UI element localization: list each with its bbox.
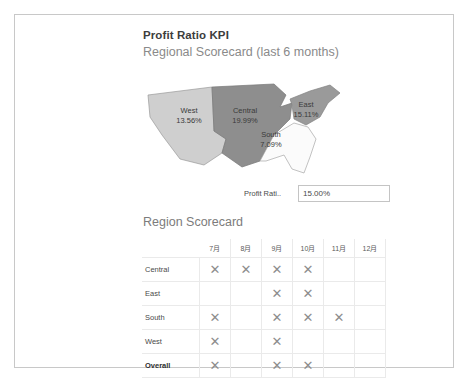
cross-mark-icon: ✕ [272, 286, 283, 301]
cell-south-12月[interactable]: ✕ [355, 306, 386, 330]
cell-south-7月[interactable]: ✕ [200, 306, 231, 330]
map-label-south-value: 7.09% [246, 140, 296, 150]
report-frame: Profit Ratio KPI Regional Scorecard (las… [14, 14, 454, 368]
cross-mark-icon: ✕ [303, 358, 314, 373]
table-header-row: 7月 8月 9月 10月 11月 12月 [142, 239, 386, 258]
cell-west-10月[interactable]: ✕ [293, 330, 324, 354]
cell-south-10月[interactable]: ✕ [293, 306, 324, 330]
cell-overall-9月[interactable]: ✕ [262, 354, 293, 378]
map-label-east: East 15.11% [282, 100, 330, 119]
cell-overall-10月[interactable]: ✕ [293, 354, 324, 378]
cell-overall-12月[interactable]: ✕ [355, 354, 386, 378]
profit-ratio-input[interactable] [298, 185, 390, 202]
map-label-central: Central 19.99% [218, 106, 272, 125]
cell-east-8月[interactable]: ✕ [231, 282, 262, 306]
cell-east-9月[interactable]: ✕ [262, 282, 293, 306]
profit-ratio-label: Profit Rati.. [244, 189, 281, 198]
scorecard-title: Region Scorecard [143, 215, 243, 229]
cross-mark-icon: ✕ [303, 310, 314, 325]
table-corner-header [142, 239, 200, 258]
table-row: Central✕✕✕✕✕✕ [142, 258, 386, 282]
cell-west-9月[interactable]: ✕ [262, 330, 293, 354]
column-header-month-12[interactable]: 12月 [355, 239, 386, 258]
cross-mark-icon: ✕ [210, 310, 221, 325]
page-title: Profit Ratio KPI [143, 29, 229, 41]
table-row: West✕✕✕✕✕✕ [142, 330, 386, 354]
table-row: Overall✕✕✕✕✕✕ [142, 354, 386, 378]
us-choropleth-map[interactable]: West 13.56% Central 19.99% East 15.11% S… [134, 73, 392, 183]
table-row: East✕✕✕✕✕✕ [142, 282, 386, 306]
page-subtitle: Regional Scorecard (last 6 months) [143, 45, 339, 59]
row-header-central: Central [142, 258, 200, 282]
cross-mark-icon: ✕ [272, 358, 283, 373]
cross-mark-icon: ✕ [303, 286, 314, 301]
row-header-overall: Overall [142, 354, 200, 378]
map-label-south-name: South [246, 130, 296, 140]
map-label-west-name: West [162, 106, 216, 116]
cell-central-8月[interactable]: ✕ [231, 258, 262, 282]
cell-south-9月[interactable]: ✕ [262, 306, 293, 330]
cell-central-10月[interactable]: ✕ [293, 258, 324, 282]
cell-east-11月[interactable]: ✕ [324, 282, 355, 306]
row-header-south: South [142, 306, 200, 330]
cell-west-12月[interactable]: ✕ [355, 330, 386, 354]
cross-mark-icon: ✕ [272, 310, 283, 325]
cross-mark-icon: ✕ [272, 334, 283, 349]
map-label-east-name: East [282, 100, 330, 110]
cell-central-7月[interactable]: ✕ [200, 258, 231, 282]
column-header-month-10[interactable]: 10月 [293, 239, 324, 258]
cell-west-11月[interactable]: ✕ [324, 330, 355, 354]
map-label-west: West 13.56% [162, 106, 216, 125]
cell-overall-7月[interactable]: ✕ [200, 354, 231, 378]
map-label-west-value: 13.56% [162, 116, 216, 126]
profit-ratio-parameter[interactable]: Profit Rati.. [244, 185, 394, 203]
table-body: Central✕✕✕✕✕✕East✕✕✕✕✕✕South✕✕✕✕✕✕West✕✕… [142, 258, 386, 378]
map-label-south: South 7.09% [246, 130, 296, 149]
cross-mark-icon: ✕ [210, 334, 221, 349]
cell-west-7月[interactable]: ✕ [200, 330, 231, 354]
cross-mark-icon: ✕ [241, 262, 252, 277]
cell-central-11月[interactable]: ✕ [324, 258, 355, 282]
cross-mark-icon: ✕ [210, 358, 221, 373]
map-label-central-value: 19.99% [218, 116, 272, 126]
column-header-month-8[interactable]: 8月 [231, 239, 262, 258]
cell-central-9月[interactable]: ✕ [262, 258, 293, 282]
table-row: South✕✕✕✕✕✕ [142, 306, 386, 330]
row-header-west: West [142, 330, 200, 354]
column-header-month-9[interactable]: 9月 [262, 239, 293, 258]
column-header-month-11[interactable]: 11月 [324, 239, 355, 258]
dashboard-sheet: Profit Ratio KPI Regional Scorecard (las… [126, 15, 396, 369]
map-label-east-value: 15.11% [282, 110, 330, 120]
region-scorecard-table: 7月 8月 9月 10月 11月 12月 Central✕✕✕✕✕✕East✕✕… [142, 239, 386, 378]
cell-central-12月[interactable]: ✕ [355, 258, 386, 282]
cell-overall-11月[interactable]: ✕ [324, 354, 355, 378]
cell-west-8月[interactable]: ✕ [231, 330, 262, 354]
cell-south-8月[interactable]: ✕ [231, 306, 262, 330]
cell-east-7月[interactable]: ✕ [200, 282, 231, 306]
cell-overall-8月[interactable]: ✕ [231, 354, 262, 378]
cross-mark-icon: ✕ [303, 262, 314, 277]
map-svg [134, 73, 392, 183]
cell-south-11月[interactable]: ✕ [324, 306, 355, 330]
cell-east-12月[interactable]: ✕ [355, 282, 386, 306]
cell-east-10月[interactable]: ✕ [293, 282, 324, 306]
cross-mark-icon: ✕ [272, 262, 283, 277]
cross-mark-icon: ✕ [210, 262, 221, 277]
row-header-east: East [142, 282, 200, 306]
column-header-month-7[interactable]: 7月 [200, 239, 231, 258]
cross-mark-icon: ✕ [334, 310, 345, 325]
map-label-central-name: Central [218, 106, 272, 116]
